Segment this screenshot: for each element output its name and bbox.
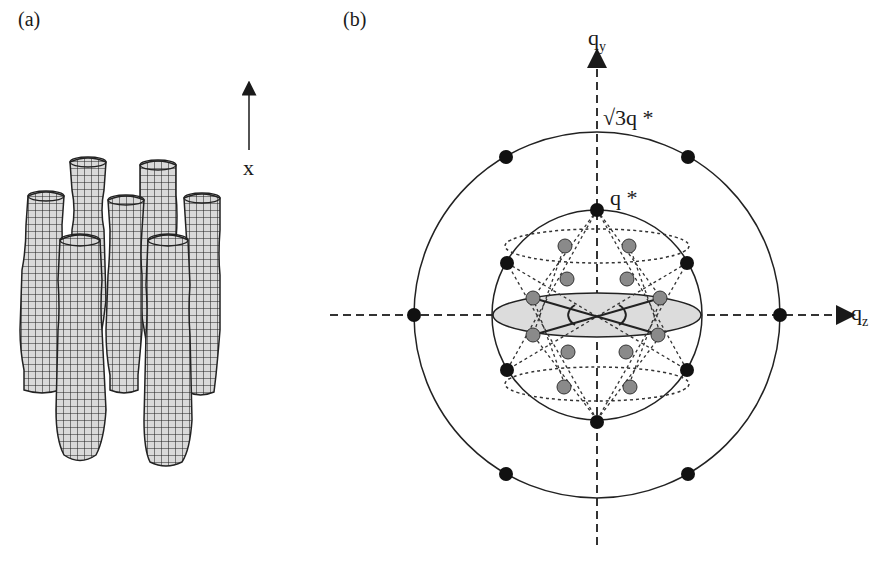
inner-peak: [680, 256, 694, 270]
inner-ring-label: q *: [610, 185, 638, 210]
gray-peak: [526, 291, 540, 305]
gray-peak: [622, 239, 636, 253]
inner-peak: [500, 256, 514, 270]
qz-label: qz: [851, 300, 868, 329]
gray-peak: [561, 345, 575, 359]
outer-peak: [681, 467, 695, 481]
cylinder: [56, 235, 106, 461]
cylinder: [106, 196, 144, 393]
gray-peak: [651, 328, 665, 342]
reciprocal-space-diagram: qy qz √3q * q *: [330, 25, 868, 545]
outer-peak: [499, 150, 513, 164]
gray-peak: [619, 345, 633, 359]
outer-peak: [681, 150, 695, 164]
x-axis-label: x: [243, 155, 254, 180]
gray-peak: [526, 328, 540, 342]
gray-peak: [620, 272, 634, 286]
gray-peak: [653, 291, 667, 305]
gray-peak: [557, 380, 571, 394]
gray-peak: [560, 272, 574, 286]
gray-peak: [558, 239, 572, 253]
inner-peak: [590, 203, 604, 217]
cylinder: [144, 235, 192, 466]
qy-label: qy: [588, 25, 606, 54]
outer-ring-label: √3q *: [603, 105, 654, 130]
inner-peak: [500, 363, 514, 377]
inner-peak: [590, 415, 604, 429]
outer-peak: [407, 308, 421, 322]
figure-canvas: x: [0, 0, 888, 587]
equatorial-ellipse: [493, 293, 701, 337]
inner-peak: [680, 363, 694, 377]
outer-peak: [499, 467, 513, 481]
gray-peak: [623, 380, 637, 394]
outer-peak: [773, 308, 787, 322]
